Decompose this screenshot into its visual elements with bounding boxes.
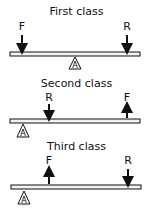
- lever-diagram: A A A: [0, 0, 153, 218]
- fulcrum-label: A: [21, 196, 27, 205]
- fulcrum-icon: A: [17, 124, 29, 138]
- fulcrum-label: A: [20, 129, 26, 138]
- lever-beam: [10, 119, 140, 123]
- lever-beam: [11, 185, 141, 189]
- third-class-lever: A: [11, 169, 141, 205]
- fulcrum-icon: A: [69, 57, 81, 70]
- lever-beam: [10, 52, 140, 56]
- first-class-lever: A: [10, 35, 140, 70]
- second-class-lever: A: [10, 104, 140, 138]
- fulcrum-icon: A: [18, 191, 30, 205]
- fulcrum-label: A: [72, 61, 78, 70]
